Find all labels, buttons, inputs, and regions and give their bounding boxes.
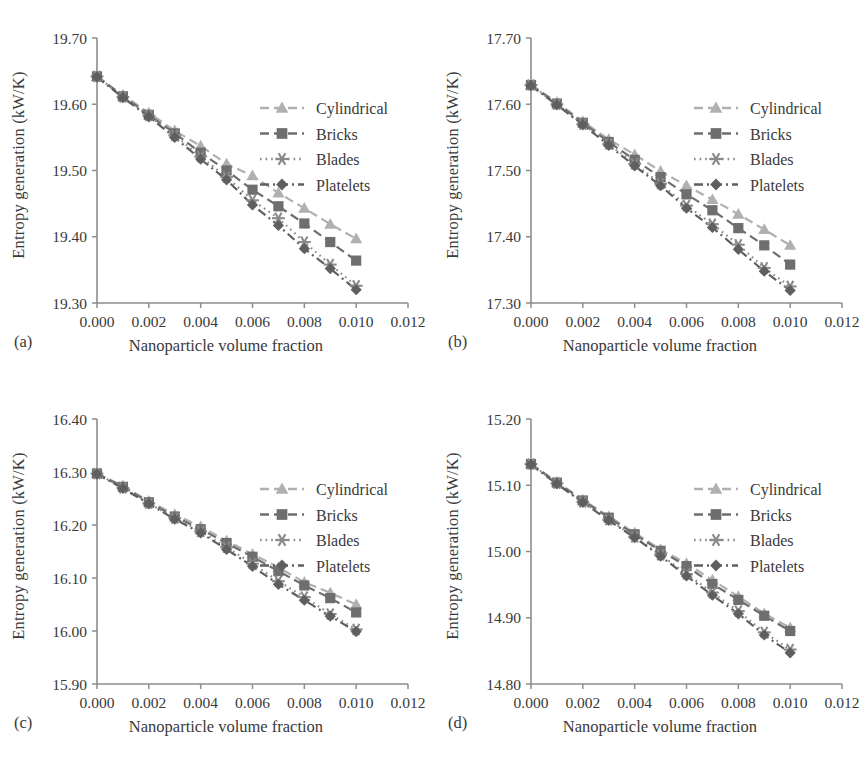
- data-marker-square: [247, 185, 257, 195]
- data-marker-triangle: [298, 202, 310, 213]
- data-marker-asterisk: [275, 534, 288, 546]
- x-axis-label: Nanoparticle volume fraction: [0, 336, 434, 356]
- data-marker-square: [711, 509, 722, 520]
- legend-label-cylindrical: Cylindrical: [316, 481, 389, 499]
- data-marker-triangle: [680, 180, 692, 191]
- y-tick-label: 14.90: [486, 609, 521, 626]
- data-marker-triangle: [784, 239, 796, 250]
- x-tick-label: 0.000: [80, 694, 115, 711]
- x-tick-label: 0.004: [183, 694, 218, 711]
- legend-label-blades: Blades: [316, 151, 360, 168]
- legend-label-platelets: Platelets: [750, 558, 804, 575]
- y-tick-label: 16.20: [52, 517, 87, 534]
- legend-label-cylindrical: Cylindrical: [750, 100, 823, 118]
- legend-label-blades: Blades: [750, 532, 794, 549]
- x-tick-label: 0.000: [514, 694, 549, 711]
- y-axis-label-text: Entropy generation (kW/K): [443, 71, 463, 258]
- data-marker-square: [733, 223, 743, 233]
- data-marker-asterisk: [709, 153, 722, 165]
- data-marker-square: [759, 611, 769, 621]
- legend: CylindricalBricksBladesPlatelets: [694, 481, 823, 575]
- data-marker-square: [299, 580, 309, 590]
- legend-label-bricks: Bricks: [316, 126, 358, 143]
- x-axis-label: Nanoparticle volume fraction: [0, 717, 434, 737]
- legend-label-bricks: Bricks: [750, 507, 792, 524]
- panel-tag-a: (a): [14, 332, 32, 352]
- chart-svg-c: 15.9016.0016.1016.2016.3016.400.0000.002…: [0, 381, 434, 762]
- x-axis-label: Nanoparticle volume fraction: [434, 336, 868, 356]
- panel-tag-c: (c): [14, 713, 32, 733]
- y-tick-label: 16.40: [52, 411, 87, 428]
- x-tick-label: 0.010: [339, 313, 374, 330]
- y-tick-label: 14.80: [486, 676, 521, 693]
- x-tick-label: 0.008: [287, 313, 322, 330]
- x-tick-label: 0.000: [80, 313, 115, 330]
- x-tick-label: 0.010: [339, 694, 374, 711]
- legend-label-bricks: Bricks: [316, 507, 358, 524]
- data-marker-square: [681, 189, 691, 199]
- x-tick-label: 0.002: [565, 313, 600, 330]
- data-marker-diamond: [759, 629, 770, 640]
- x-tick-label: 0.002: [565, 694, 600, 711]
- x-tick-label: 0.012: [825, 313, 860, 330]
- x-tick-label: 0.006: [669, 313, 704, 330]
- data-marker-triangle: [246, 170, 258, 181]
- data-marker-triangle: [324, 218, 336, 229]
- y-tick-label: 15.20: [486, 411, 521, 428]
- data-marker-triangle: [758, 223, 770, 234]
- x-axis-label: Nanoparticle volume fraction: [434, 717, 868, 737]
- y-tick-label: 16.10: [52, 570, 87, 587]
- x-tick-label: 0.002: [131, 313, 166, 330]
- y-tick-label: 17.30: [486, 295, 521, 312]
- x-tick-label: 0.008: [721, 694, 756, 711]
- chart-panel-d: 14.8014.9015.0015.1015.200.0000.0020.004…: [434, 381, 868, 762]
- y-tick-label: 17.40: [486, 228, 521, 245]
- y-tick-label: 19.50: [52, 162, 87, 179]
- legend-label-blades: Blades: [316, 532, 360, 549]
- x-tick-label: 0.012: [825, 694, 860, 711]
- legend: CylindricalBricksBladesPlatelets: [694, 100, 823, 194]
- legend-label-cylindrical: Cylindrical: [750, 481, 823, 499]
- y-tick-label: 17.60: [486, 96, 521, 113]
- legend-label-platelets: Platelets: [316, 558, 370, 575]
- panel-tag-d: (d): [448, 713, 467, 733]
- data-marker-triangle: [350, 233, 362, 244]
- y-tick-label: 19.70: [52, 30, 87, 47]
- chart-panel-b: 17.3017.4017.5017.6017.700.0000.0020.004…: [434, 0, 868, 381]
- legend-label-blades: Blades: [750, 151, 794, 168]
- figure-four-panel-chart-grid: 19.3019.4019.5019.6019.700.0000.0020.004…: [0, 0, 868, 762]
- x-axis-label-text: Nanoparticle volume fraction: [563, 336, 757, 356]
- y-tick-label: 16.30: [52, 464, 87, 481]
- y-tick-label: 16.00: [52, 623, 87, 640]
- y-tick-label: 17.70: [486, 30, 521, 47]
- legend: CylindricalBricksBladesPlatelets: [260, 100, 389, 194]
- legend-label-platelets: Platelets: [316, 177, 370, 194]
- y-axis-label: Entropy generation (kW/K): [6, 0, 32, 330]
- x-tick-label: 0.004: [183, 313, 218, 330]
- data-marker-square: [351, 256, 361, 266]
- x-tick-label: 0.006: [669, 694, 704, 711]
- legend-label-cylindrical: Cylindrical: [316, 100, 389, 118]
- data-marker-square: [785, 259, 795, 269]
- x-tick-label: 0.012: [391, 694, 426, 711]
- data-marker-square: [707, 205, 717, 215]
- chart-svg-b: 17.3017.4017.5017.6017.700.0000.0020.004…: [434, 0, 868, 381]
- x-tick-label: 0.010: [773, 694, 808, 711]
- legend-label-bricks: Bricks: [750, 126, 792, 143]
- x-axis-label-text: Nanoparticle volume fraction: [563, 717, 757, 737]
- x-tick-label: 0.010: [773, 313, 808, 330]
- x-tick-label: 0.008: [287, 694, 322, 711]
- data-marker-square: [277, 509, 288, 520]
- legend-label-platelets: Platelets: [750, 177, 804, 194]
- chart-svg-d: 14.8014.9015.0015.1015.200.0000.0020.004…: [434, 381, 868, 762]
- y-tick-label: 15.90: [52, 676, 87, 693]
- x-tick-label: 0.000: [514, 313, 549, 330]
- y-tick-label: 17.50: [486, 162, 521, 179]
- x-tick-label: 0.012: [391, 313, 426, 330]
- y-tick-label: 19.30: [52, 295, 87, 312]
- data-marker-square: [325, 593, 335, 603]
- data-marker-square: [247, 552, 257, 562]
- y-axis-label: Entropy generation (kW/K): [440, 381, 466, 711]
- x-tick-label: 0.006: [235, 694, 270, 711]
- y-axis-label-text: Entropy generation (kW/K): [9, 452, 29, 639]
